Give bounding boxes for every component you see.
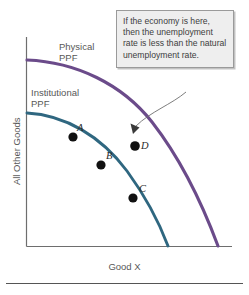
point-label-b: B (106, 150, 112, 161)
x-axis-label: Good X (0, 262, 249, 273)
bottom-divider-rule (6, 283, 243, 284)
institutional-ppf-label: Institutional PPF (31, 88, 79, 109)
data-point-c (128, 193, 137, 202)
callout-arrow-head (131, 124, 140, 135)
point-label-c: C (139, 183, 146, 194)
y-axis-label: All Other Goods (12, 101, 23, 201)
callout-arrow-line (136, 92, 186, 126)
data-point-b (96, 160, 105, 169)
callout-text: If the economy is here, then the unemplo… (123, 16, 228, 61)
institutional-ppf-curve (27, 113, 168, 246)
point-label-d: D (141, 140, 149, 151)
ppf-figure: Physical PPF Institutional PPF All Other… (0, 0, 249, 295)
physical-ppf-label: Physical PPF (59, 42, 94, 63)
point-label-a: A (77, 122, 83, 133)
callout-box: If the economy is here, then the unemplo… (116, 10, 234, 68)
data-point-d (130, 141, 140, 151)
data-point-a (68, 132, 77, 141)
